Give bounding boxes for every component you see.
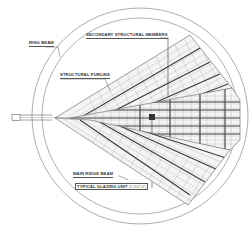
glazing-unit-size: (5'-0"x7'-0") bbox=[129, 185, 146, 189]
label-ring-beam: RING BEAM bbox=[29, 41, 54, 47]
label-main-ridge-beam: MAIN RIDGE BEAM bbox=[73, 172, 113, 178]
entry-stem bbox=[12, 115, 55, 121]
typical-glazing-unit-marker bbox=[149, 114, 155, 120]
label-secondary-structural-members: SECONDARY STRUCTURAL MEMBERS bbox=[86, 33, 168, 39]
label-typical-glazing-unit: TYPICAL GLAZING UNIT (5'-0"x7'-0") bbox=[75, 183, 148, 190]
label-structural-purlins: STRUCTURAL PURLINS bbox=[60, 73, 110, 79]
glazing-unit-name: TYPICAL GLAZING UNIT bbox=[77, 184, 128, 189]
